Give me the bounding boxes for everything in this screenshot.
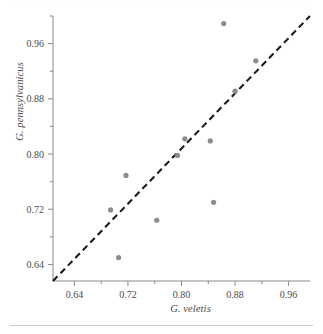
- identity-reference-line: [53, 16, 310, 281]
- data-point: [123, 173, 128, 178]
- x-tick-label: 0.96: [280, 289, 298, 300]
- plot-canvas: 0.640.720.800.880.960.640.720.800.880.96: [0, 0, 323, 334]
- y-tick-label: 0.96: [27, 38, 45, 49]
- x-axis-label-text: G. veletis: [112, 303, 211, 314]
- x-tick-label: 0.80: [173, 289, 191, 300]
- footer-divider: [10, 325, 313, 326]
- reference-line-group: [53, 16, 310, 281]
- data-point: [211, 200, 216, 205]
- y-tick-label: 0.64: [27, 259, 45, 270]
- x-tick-label: 0.88: [226, 289, 244, 300]
- data-point: [108, 207, 113, 212]
- y-tick-label: 0.88: [27, 93, 45, 104]
- x-axis-label: G. veletis: [0, 303, 323, 314]
- y-axis-label: G. pennsylvanicus: [14, 37, 25, 167]
- data-point: [175, 153, 180, 158]
- x-tick-label: 0.64: [66, 289, 84, 300]
- data-point: [232, 89, 237, 94]
- data-point: [253, 58, 258, 63]
- data-point: [182, 136, 187, 141]
- data-point: [221, 21, 226, 26]
- scatter-plot-figure: 0.640.720.800.880.960.640.720.800.880.96…: [0, 0, 323, 334]
- data-points-group: [108, 21, 258, 260]
- data-point: [154, 218, 159, 223]
- x-tick-label: 0.72: [119, 289, 137, 300]
- data-point: [116, 255, 121, 260]
- data-point: [208, 138, 213, 143]
- y-tick-label: 0.80: [27, 149, 45, 160]
- y-tick-label: 0.72: [27, 204, 45, 215]
